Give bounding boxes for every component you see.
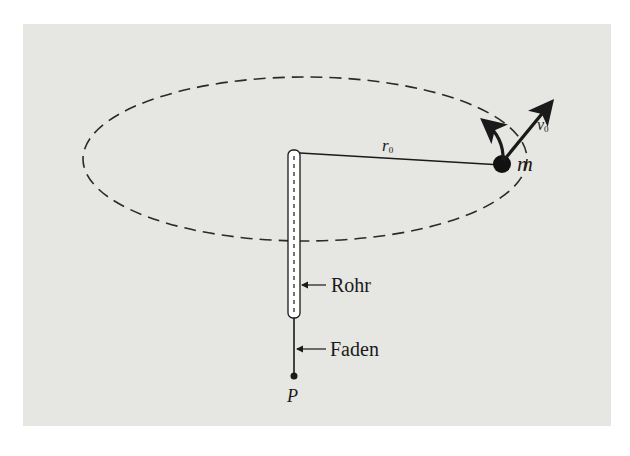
mass-label: m	[517, 151, 533, 176]
diagram-background	[23, 24, 611, 426]
tube	[288, 150, 300, 318]
point-p-dot	[291, 373, 298, 380]
rotating-mass-diagram: r0 v0 m Rohr Faden P	[0, 0, 630, 456]
point-p-label: P	[286, 386, 298, 406]
thread-label: Faden	[330, 338, 379, 360]
tube-label: Rohr	[331, 274, 371, 296]
